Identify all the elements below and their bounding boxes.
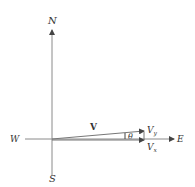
vector-diagram: N S W E V θ Vy Vx — [0, 0, 195, 187]
angle-label: θ — [128, 132, 133, 141]
south-label: S — [49, 173, 56, 184]
north-label: N — [47, 15, 58, 26]
vy-label: Vy — [147, 125, 158, 137]
west-label: W — [10, 134, 20, 144]
vx-label: Vx — [147, 142, 158, 153]
vector-label: V — [89, 122, 98, 132]
east-label: E — [176, 134, 184, 144]
